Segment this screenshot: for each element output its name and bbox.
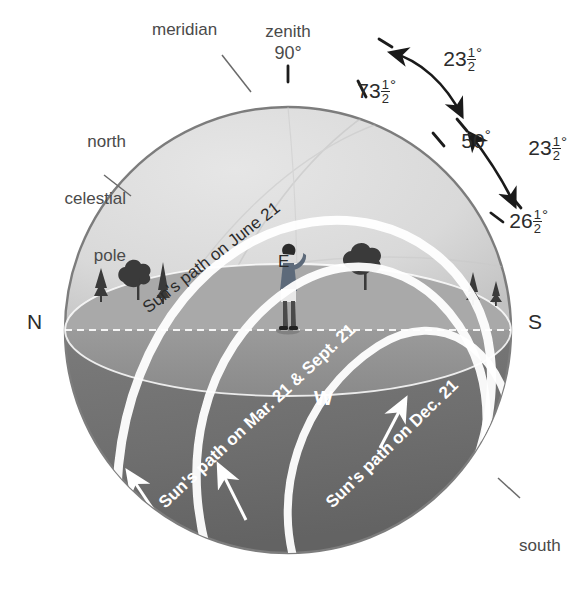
tick-arc-top: [379, 39, 392, 47]
arc-upper-degree: °: [476, 44, 482, 61]
altitude-50-degree: °: [485, 126, 491, 143]
cardinal-east-label: E: [278, 252, 289, 271]
ncp-line2: celestial: [10, 189, 126, 208]
altitude-73-half-fraction: 12: [381, 78, 390, 105]
arc-upper-whole: 23: [443, 47, 466, 70]
arc-upper-fraction: 12: [467, 46, 476, 73]
altitude-26-half-degree: °: [542, 206, 548, 223]
altitude-73-half: 7312°: [334, 56, 396, 124]
cardinal-north-label: N: [27, 312, 42, 331]
altitude-26-half-whole: 26: [509, 209, 532, 232]
north-celestial-pole-label: north celestial pole: [10, 94, 126, 303]
scp-leader: [498, 478, 520, 498]
altitude-73-half-whole: 73: [357, 79, 380, 102]
altitude-50-whole: 50: [461, 129, 484, 152]
altitude-26-half: 2612°: [486, 186, 548, 254]
scp-line1: south: [519, 536, 577, 555]
arc-lower-whole: 23: [528, 136, 551, 159]
altitude-50: 50°: [438, 106, 491, 169]
zenith-label: zenith: [228, 22, 348, 41]
arc-measure-upper: 2312°: [420, 24, 482, 92]
arc-measure-lower: 2312°: [505, 113, 567, 181]
south-celestial-pole-label: south celestial pole: [519, 498, 577, 589]
zenith-angle-label: 90°: [228, 44, 348, 63]
cardinal-west-label: W: [314, 389, 333, 408]
arc-lower-degree: °: [561, 133, 567, 150]
ncp-line1: north: [10, 132, 126, 151]
arc-lower-fraction: 12: [552, 135, 561, 162]
cardinal-south-label: S: [528, 312, 542, 331]
ncp-line3: pole: [10, 246, 126, 265]
celestial-sphere-diagram: meridian zenith 90° north celestial pole…: [0, 0, 577, 589]
meridian-label: meridian: [152, 20, 217, 39]
altitude-73-half-degree: °: [390, 76, 396, 93]
altitude-26-half-fraction: 12: [533, 208, 542, 235]
